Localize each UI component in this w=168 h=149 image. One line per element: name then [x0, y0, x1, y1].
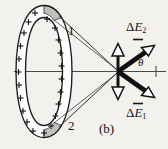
- delta-e-2-vector: [118, 46, 155, 72]
- theta-angle-label: θ: [138, 57, 143, 68]
- figure-container: 1 2 (b) ΔE2 ΔE1 θ: [0, 0, 168, 149]
- figure-caption: (b): [99, 122, 114, 135]
- segment-2-label: 2: [68, 119, 75, 132]
- segment-1-label: 1: [68, 24, 75, 37]
- delta-e-1-vector: [118, 72, 155, 98]
- e-subscript: 2: [142, 26, 146, 35]
- e-subscript: 1: [142, 112, 146, 121]
- charged-ring: [16, 6, 72, 138]
- delta-e-2-label: ΔE2: [126, 20, 146, 35]
- delta-e-1-label: ΔE1: [126, 106, 146, 121]
